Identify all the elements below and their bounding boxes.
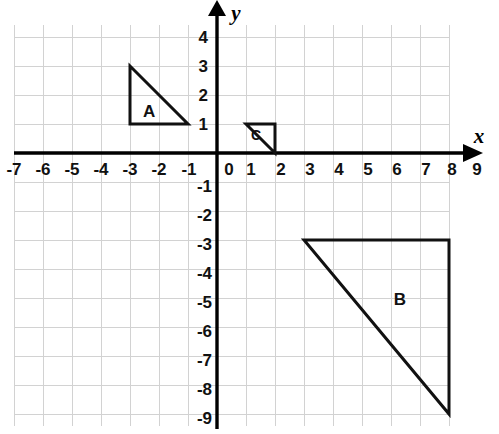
y-tick-label: 2 [199,86,208,105]
coordinate-plane-figure: -7 -6 -5 -4 -3 -2 -1 0 1 2 3 4 5 6 7 8 9… [0,0,499,434]
x-tick-label: -5 [64,160,79,179]
shape-triangle-c: C [246,124,275,153]
y-tick-label: -5 [197,293,212,312]
x-tick-label: 6 [392,160,401,179]
y-tick-label: -6 [197,322,212,341]
y-tick-label: -4 [197,264,213,283]
x-tick-label: 4 [334,160,344,179]
y-tick-label: 1 [199,115,208,134]
grid-lines [14,25,450,426]
y-tick-label: -8 [197,380,212,399]
x-tick-label: -1 [181,160,196,179]
x-tick-label: -3 [122,160,137,179]
y-axis-arrowhead [208,0,226,16]
x-tick-label: -4 [93,160,109,179]
y-axis-label: y [228,1,241,25]
x-tick-label: 9 [472,160,481,179]
triangle-a-label: A [143,102,155,121]
x-axis-label: x [473,124,485,148]
x-tick-label: 2 [276,160,285,179]
y-tick-label: -9 [197,409,212,428]
axis-name-labels: x y [228,1,484,148]
triangle-c-label: C [251,127,261,143]
x-tick-label: -6 [35,160,50,179]
x-tick-label: 1 [246,160,255,179]
y-tick-label: -7 [197,351,212,370]
y-tick-label: 3 [199,57,208,76]
x-tick-label: -7 [6,160,21,179]
axes [14,0,483,429]
x-tick-label: 3 [305,160,314,179]
graph-svg: -7 -6 -5 -4 -3 -2 -1 0 1 2 3 4 5 6 7 8 9… [0,0,499,434]
y-tick-label: -1 [197,177,212,196]
x-axis-tick-labels: -7 -6 -5 -4 -3 -2 -1 0 1 2 3 4 5 6 7 8 9 [6,160,481,179]
y-tick-label: 4 [199,28,209,47]
x-tick-label: 5 [363,160,372,179]
triangle-b-label: B [394,290,406,309]
x-tick-label: 7 [421,160,430,179]
y-tick-label: -2 [197,206,212,225]
x-tick-label: 8 [447,160,456,179]
y-tick-label: -3 [197,235,212,254]
x-tick-label: 0 [224,160,233,179]
y-axis-tick-labels: 4 3 2 1 -1 -2 -3 -4 -5 -6 -7 -8 -9 [197,28,213,428]
x-tick-label: -2 [151,160,166,179]
